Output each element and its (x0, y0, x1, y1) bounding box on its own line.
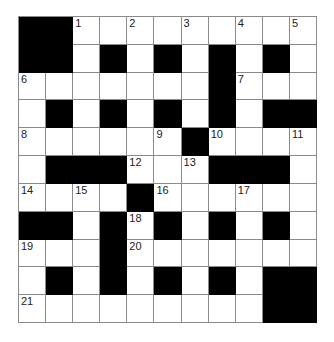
answer-cell[interactable] (263, 128, 290, 156)
answer-cell[interactable] (73, 45, 100, 73)
answer-cell[interactable] (182, 267, 209, 295)
answer-cell[interactable] (182, 73, 209, 101)
answer-cell[interactable] (73, 295, 100, 323)
answer-cell[interactable]: 19 (19, 240, 46, 268)
clue-number: 2 (129, 17, 135, 30)
answer-cell[interactable]: 1 (73, 17, 100, 45)
answer-cell[interactable] (46, 295, 73, 323)
answer-cell[interactable] (182, 45, 209, 73)
answer-cell[interactable] (73, 100, 100, 128)
answer-cell[interactable] (154, 156, 181, 184)
answer-cell[interactable]: 13 (182, 156, 209, 184)
block-cell (290, 295, 317, 323)
answer-cell[interactable] (209, 295, 236, 323)
answer-cell[interactable] (236, 45, 263, 73)
answer-cell[interactable] (46, 73, 73, 101)
answer-cell[interactable] (19, 100, 46, 128)
answer-cell[interactable] (100, 17, 127, 45)
answer-cell[interactable] (19, 267, 46, 295)
answer-cell[interactable] (100, 128, 127, 156)
answer-cell[interactable] (236, 295, 263, 323)
answer-cell[interactable] (182, 295, 209, 323)
answer-cell[interactable] (236, 267, 263, 295)
answer-cell[interactable]: 16 (154, 184, 181, 212)
clue-number: 8 (21, 128, 27, 141)
answer-cell[interactable] (100, 295, 127, 323)
block-cell (209, 100, 236, 128)
answer-cell[interactable] (154, 240, 181, 268)
answer-cell[interactable] (182, 184, 209, 212)
answer-cell[interactable] (182, 240, 209, 268)
answer-cell[interactable] (46, 240, 73, 268)
answer-cell[interactable]: 3 (182, 17, 209, 45)
answer-cell[interactable]: 10 (209, 128, 236, 156)
answer-cell[interactable] (19, 156, 46, 184)
answer-cell[interactable] (73, 240, 100, 268)
answer-cell[interactable] (46, 184, 73, 212)
answer-cell[interactable] (236, 212, 263, 240)
answer-cell[interactable] (236, 100, 263, 128)
answer-cell[interactable] (154, 295, 181, 323)
answer-cell[interactable]: 11 (290, 128, 317, 156)
answer-cell[interactable]: 4 (236, 17, 263, 45)
answer-cell[interactable] (263, 184, 290, 212)
answer-cell[interactable] (263, 73, 290, 101)
answer-cell[interactable]: 20 (127, 240, 154, 268)
answer-cell[interactable] (73, 73, 100, 101)
clue-number: 20 (129, 240, 141, 253)
answer-cell[interactable]: 5 (290, 17, 317, 45)
block-cell (236, 156, 263, 184)
answer-cell[interactable] (263, 17, 290, 45)
answer-cell[interactable] (73, 128, 100, 156)
block-cell (263, 267, 290, 295)
answer-cell[interactable] (73, 267, 100, 295)
answer-cell[interactable] (182, 212, 209, 240)
answer-cell[interactable] (73, 212, 100, 240)
answer-cell[interactable] (290, 240, 317, 268)
answer-cell[interactable] (290, 184, 317, 212)
answer-cell[interactable]: 9 (154, 128, 181, 156)
answer-cell[interactable]: 7 (236, 73, 263, 101)
block-cell (290, 100, 317, 128)
answer-cell[interactable] (290, 45, 317, 73)
answer-cell[interactable] (209, 240, 236, 268)
answer-cell[interactable]: 21 (19, 295, 46, 323)
block-cell (46, 100, 73, 128)
answer-cell[interactable] (209, 184, 236, 212)
block-cell (19, 45, 46, 73)
answer-cell[interactable] (182, 100, 209, 128)
answer-cell[interactable]: 17 (236, 184, 263, 212)
answer-cell[interactable] (127, 45, 154, 73)
answer-cell[interactable] (209, 17, 236, 45)
clue-number: 16 (156, 184, 168, 197)
answer-cell[interactable] (127, 295, 154, 323)
block-cell (19, 17, 46, 45)
answer-cell[interactable]: 15 (73, 184, 100, 212)
answer-cell[interactable] (290, 212, 317, 240)
answer-cell[interactable] (46, 128, 73, 156)
answer-cell[interactable] (100, 73, 127, 101)
answer-cell[interactable] (290, 156, 317, 184)
answer-cell[interactable] (127, 128, 154, 156)
answer-cell[interactable] (263, 240, 290, 268)
answer-cell[interactable]: 14 (19, 184, 46, 212)
clue-number: 21 (21, 295, 33, 308)
answer-cell[interactable]: 2 (127, 17, 154, 45)
answer-cell[interactable]: 8 (19, 128, 46, 156)
answer-cell[interactable] (236, 128, 263, 156)
answer-cell[interactable]: 12 (127, 156, 154, 184)
clue-number: 19 (21, 240, 33, 253)
block-cell (46, 156, 73, 184)
answer-cell[interactable] (100, 184, 127, 212)
clue-number: 5 (292, 17, 298, 30)
answer-cell[interactable] (154, 73, 181, 101)
answer-cell[interactable] (127, 267, 154, 295)
answer-cell[interactable] (154, 17, 181, 45)
answer-cell[interactable]: 6 (19, 73, 46, 101)
answer-cell[interactable] (236, 240, 263, 268)
answer-cell[interactable] (127, 100, 154, 128)
clue-number: 17 (238, 184, 250, 197)
answer-cell[interactable] (290, 73, 317, 101)
answer-cell[interactable] (127, 73, 154, 101)
answer-cell[interactable]: 18 (127, 212, 154, 240)
